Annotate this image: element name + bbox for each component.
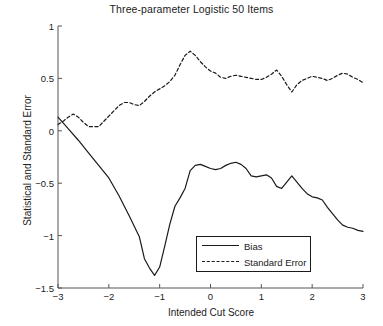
legend-label-standard-error: Standard Error <box>244 257 306 268</box>
plot-area <box>0 0 383 326</box>
legend-item-bias: Bias <box>202 238 262 254</box>
chart-figure: Three-parameter Logistic 50 Items Statis… <box>0 0 383 326</box>
legend: Bias Standard Error <box>196 236 311 272</box>
legend-swatch-dashed-line-icon <box>202 257 239 267</box>
x-axis-label: Intended Cut Score <box>58 307 364 318</box>
legend-swatch-solid-line-icon <box>202 241 239 251</box>
legend-label-bias: Bias <box>244 241 262 252</box>
legend-item-standard-error: Standard Error <box>202 254 306 270</box>
series-line-standard-error <box>58 51 363 126</box>
